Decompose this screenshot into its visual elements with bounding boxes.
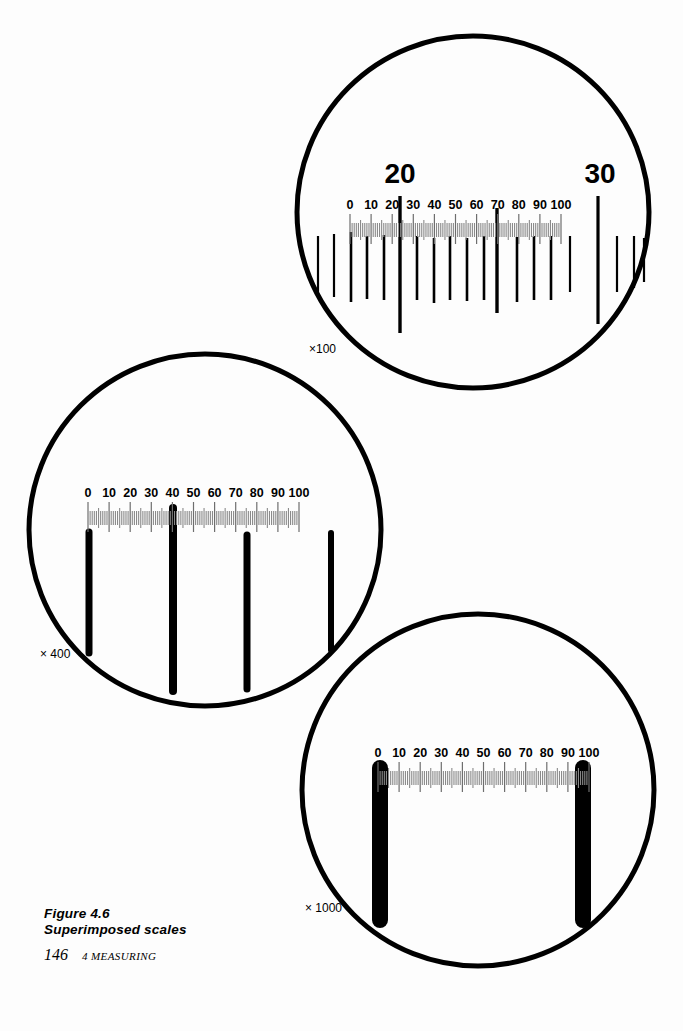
eyepiece-label-70: 70 <box>519 746 533 760</box>
eyepiece-label-30: 30 <box>144 486 158 500</box>
eyepiece-label-80: 80 <box>512 198 526 212</box>
stage-label-30: 30 <box>584 158 615 189</box>
eyepiece-label-20: 20 <box>123 486 137 500</box>
eyepiece-label-20: 20 <box>385 198 399 212</box>
eyepiece-label-0: 0 <box>347 198 354 212</box>
eyepiece-label-0: 0 <box>375 746 382 760</box>
page-number: 146 <box>44 946 68 964</box>
eyepiece-label-80: 80 <box>250 486 264 500</box>
eyepiece-label-80: 80 <box>540 746 554 760</box>
eyepiece-label-0: 0 <box>85 486 92 500</box>
eyepiece-label-50: 50 <box>187 486 201 500</box>
stage-label-20: 20 <box>384 158 415 189</box>
eyepiece-label-40: 40 <box>455 746 469 760</box>
eyepiece-label-60: 60 <box>498 746 512 760</box>
magnification-label-x1000: × 1000 <box>305 901 342 915</box>
eyepiece-label-50: 50 <box>449 198 463 212</box>
eyepiece-label-100: 100 <box>579 746 600 760</box>
eyepiece-label-60: 60 <box>470 198 484 212</box>
eyepiece-label-30: 30 <box>434 746 448 760</box>
eyepiece-label-90: 90 <box>271 486 285 500</box>
eyepiece-label-70: 70 <box>491 198 505 212</box>
eyepiece-label-100: 100 <box>551 198 572 212</box>
eyepiece-label-70: 70 <box>229 486 243 500</box>
magnification-label-x400: × 400 <box>40 647 70 661</box>
eyepiece-label-10: 10 <box>102 486 116 500</box>
eyepiece-label-10: 10 <box>364 198 378 212</box>
eyepiece-label-90: 90 <box>533 198 547 212</box>
eyepiece-label-30: 30 <box>406 198 420 212</box>
eyepiece-label-20: 20 <box>413 746 427 760</box>
eyepiece-label-90: 90 <box>561 746 575 760</box>
magnification-label-x100: ×100 <box>309 342 336 356</box>
eyepiece-label-40: 40 <box>165 486 179 500</box>
figure-superimposed-scales: 20 30 0102030405060708090100 <box>0 0 683 1031</box>
page-footer: 146 4 MEASURING <box>44 946 156 964</box>
eyepiece-label-50: 50 <box>477 746 491 760</box>
eyepiece-label-40: 40 <box>427 198 441 212</box>
figure-caption: Figure 4.6 Superimposed scales <box>44 906 187 938</box>
chapter-label: 4 MEASURING <box>82 950 156 962</box>
eyepiece-label-10: 10 <box>392 746 406 760</box>
eyepiece-label-100: 100 <box>289 486 310 500</box>
eyepiece-label-60: 60 <box>208 486 222 500</box>
